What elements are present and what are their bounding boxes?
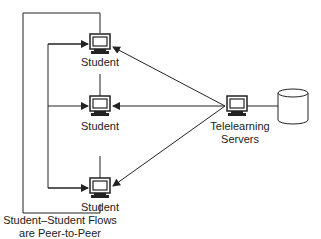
student-bot-label: Student bbox=[80, 201, 120, 214]
peer-loop-outer bbox=[23, 13, 100, 213]
student-mid-computer-icon bbox=[90, 96, 110, 116]
caption: Student–Student Flows are Peer-to-Peer bbox=[0, 214, 120, 239]
flow-server-student-bot bbox=[113, 106, 225, 186]
server-label-line1: Telelearning bbox=[205, 120, 275, 133]
server-computer-icon bbox=[227, 96, 247, 116]
server-label-line2: Servers bbox=[205, 133, 275, 146]
flow-server-student-top bbox=[113, 47, 225, 106]
server-label: Telelearning Servers bbox=[205, 120, 275, 146]
database-cylinder-icon bbox=[278, 89, 308, 124]
student-bot-computer-icon bbox=[90, 178, 110, 198]
caption-line1: Student–Student Flows bbox=[0, 214, 120, 227]
student-mid-label: Student bbox=[80, 120, 120, 133]
caption-line2: are Peer-to-Peer bbox=[0, 227, 120, 239]
student-top-computer-icon bbox=[90, 34, 110, 54]
student-top-label: Student bbox=[80, 56, 120, 69]
